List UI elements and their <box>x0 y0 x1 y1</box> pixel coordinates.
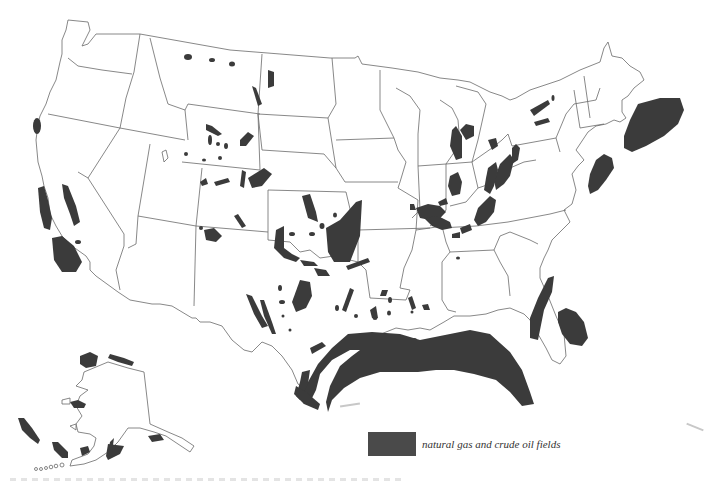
alaska-island <box>62 398 70 404</box>
oil-gas-fields-map <box>0 0 708 485</box>
bleed-through-text <box>10 478 405 481</box>
legend-label: natural gas and crude oil fields <box>422 438 560 450</box>
us-outline <box>36 20 644 392</box>
alaska-island-2 <box>70 424 76 430</box>
field-swatch-icon <box>368 432 416 456</box>
map-legend: natural gas and crude oil fields <box>368 432 560 456</box>
aleutian-islands <box>35 463 65 471</box>
